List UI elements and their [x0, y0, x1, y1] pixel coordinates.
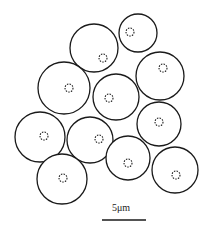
- cell: [106, 136, 150, 180]
- scale-bar-label: 5μm: [112, 202, 130, 213]
- cell: [119, 14, 157, 52]
- cell: [38, 62, 90, 114]
- cell-membrane: [152, 147, 198, 193]
- cell: [137, 102, 181, 146]
- cell-membrane: [137, 102, 181, 146]
- cell-membrane: [37, 154, 87, 204]
- cell-membrane: [70, 24, 118, 72]
- cell-membrane: [93, 74, 139, 120]
- cell-diagram: [0, 0, 208, 233]
- cell: [37, 154, 87, 204]
- cell: [136, 52, 184, 100]
- cell-membrane: [106, 136, 150, 180]
- cell: [152, 147, 198, 193]
- cell-membrane: [119, 14, 157, 52]
- cell-membrane: [136, 52, 184, 100]
- cell-membrane: [38, 62, 90, 114]
- cell: [93, 74, 139, 120]
- cell: [70, 24, 118, 72]
